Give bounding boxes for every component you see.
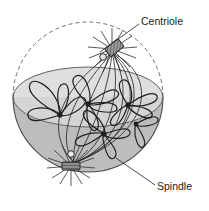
leader-line-spindle — [116, 158, 155, 185]
label-centriole: Centriole — [141, 15, 183, 27]
label-spindle: Spindle — [157, 180, 192, 192]
cell-division-diagram: Centriole Spindle — [0, 0, 209, 211]
diagram-canvas: Centriole Spindle — [0, 0, 209, 211]
